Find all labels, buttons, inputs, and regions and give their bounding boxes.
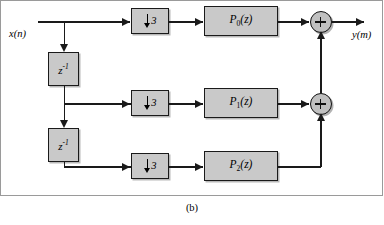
arrowhead-down1-input [122,100,130,108]
delay-2: z-1 [48,128,79,162]
down-arrow-icon [144,14,151,28]
figure-canvas: x(n) 3 P0(z) y(m) z-1 3 P1(z) [0,0,384,225]
delay-1-label: z-1 [58,62,69,76]
adder-1 [310,11,332,33]
adder-2 [310,93,332,115]
output-signal-label: y(m) [352,29,371,40]
arrowhead-output [356,18,364,26]
downsampler-0: 3 [131,8,169,34]
downsampler-1-content: 3 [144,96,157,110]
arrowhead-down0-input [122,18,130,26]
filter-0: P0(z) [204,6,278,36]
arrowhead-delay1-input [60,44,68,52]
wire-delay1-out-trunk [64,86,65,105]
downsampler-1-factor: 3 [151,98,156,109]
downsampler-0-content: 3 [144,14,157,28]
arrowhead-adder2-left-input [301,100,309,108]
arrowhead-adder1-left-input [301,18,309,26]
delay-1: z-1 [48,52,79,86]
arrowhead-down2-input [122,163,130,171]
arrowhead-adder1-bottom-input [317,31,325,39]
arrowhead-filter0-input [195,18,203,26]
downsampler-0-factor: 3 [151,16,156,27]
wire-input-to-down0 [38,21,130,22]
arrowhead-delay2-input [60,120,68,128]
filter-0-label: P0(z) [230,13,253,28]
wire-delay1-to-down1 [64,103,131,104]
arrowhead-filter1-input [195,100,203,108]
downsampler-1: 3 [131,90,169,116]
input-signal-label: x(n) [9,28,26,39]
wire-delay2-to-down2 [64,166,131,167]
delay-2-label: z-1 [58,138,69,152]
wire-riser-to-adder2 [320,115,321,167]
figure-caption: (b) [0,202,384,213]
filter-2-label: P2(z) [230,158,253,173]
downsampler-2: 3 [131,153,169,179]
filter-1-label: P1(z) [230,95,253,110]
filter-1: P1(z) [204,88,278,118]
arrowhead-filter2-input [195,163,203,171]
down-arrow-icon [144,96,151,110]
arrowhead-adder2-bottom-input [317,113,325,121]
downsampler-2-factor: 3 [151,161,156,172]
wire-adder2-to-adder1 [320,33,321,93]
filter-2: P2(z) [204,151,278,181]
wire-filter2-to-riser [278,166,321,167]
downsampler-2-content: 3 [144,159,157,173]
down-arrow-icon [144,159,151,173]
